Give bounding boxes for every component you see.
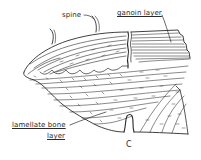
spine-label: spine bbox=[62, 11, 81, 19]
notch-label: C bbox=[126, 141, 132, 149]
fiber-hatching bbox=[34, 45, 185, 128]
ganoin-layer-label: ganoin layer bbox=[117, 9, 162, 17]
scallop-layers bbox=[28, 36, 128, 74]
outline-bottom-right bbox=[134, 132, 188, 134]
left-spine bbox=[50, 29, 53, 44]
ganoin-lamellae bbox=[132, 33, 190, 62]
central-crack bbox=[127, 32, 128, 68]
lamellate-layer-label: layer bbox=[47, 132, 65, 140]
ganoin-leader bbox=[162, 15, 171, 42]
scale-diagram: spine ganoin layer lamellate bone layer … bbox=[0, 0, 201, 160]
scale-drawing bbox=[0, 0, 201, 160]
central-crack-right bbox=[130, 32, 131, 62]
lamellate-bone-label: lamellate bone bbox=[12, 121, 66, 129]
upper-spine bbox=[92, 16, 96, 32]
